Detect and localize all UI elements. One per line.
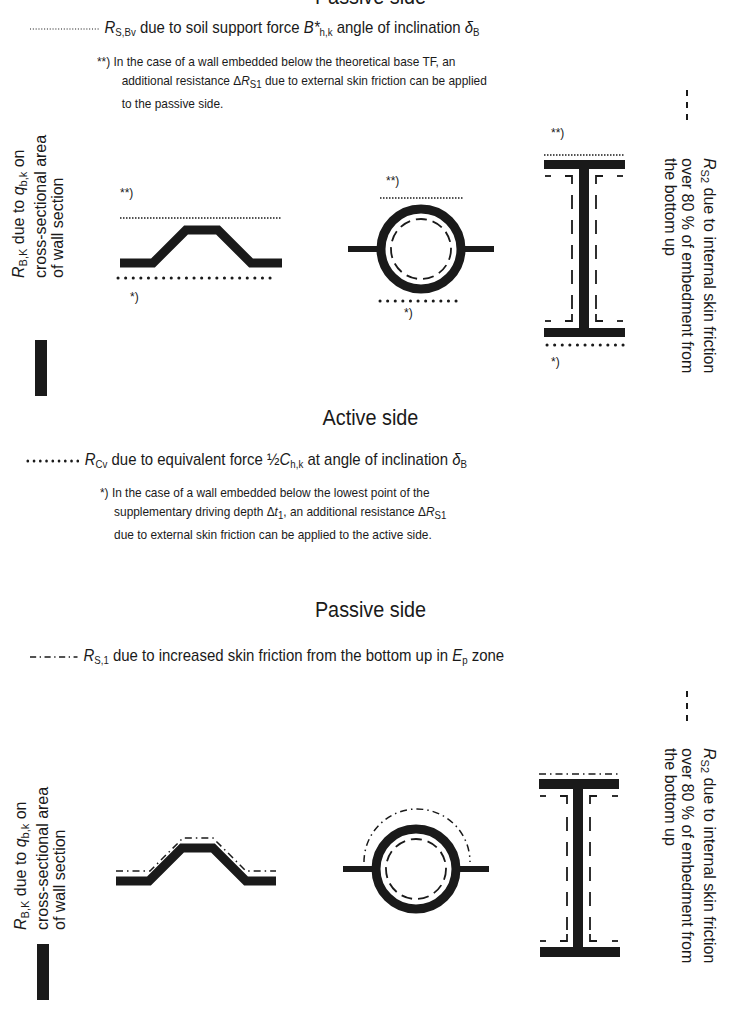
bottom-trapezoidal-sheet-pile <box>116 838 276 881</box>
top-trapezoidal-sheet-pile <box>118 218 282 278</box>
bottom-h-beam <box>539 774 620 957</box>
bottom-rbk-solid-swatch <box>37 944 49 1000</box>
top-h-beam <box>544 155 627 345</box>
top-rbk-solid-swatch <box>35 340 47 396</box>
bottom-tube-pile <box>343 809 489 909</box>
wall-section-drawings <box>0 0 741 1009</box>
top-tube-pile <box>348 198 494 301</box>
